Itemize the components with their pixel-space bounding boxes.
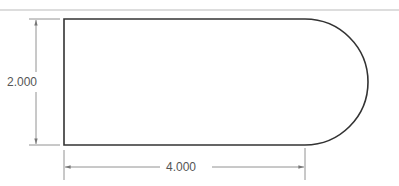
length-dimension-label: 4.000 bbox=[164, 160, 198, 174]
obround-shape-outline bbox=[64, 19, 368, 145]
drawing-svg bbox=[0, 0, 399, 186]
height-dimension-label: 2.000 bbox=[5, 75, 39, 89]
drawing-canvas: 2.000 4.000 bbox=[0, 0, 399, 186]
